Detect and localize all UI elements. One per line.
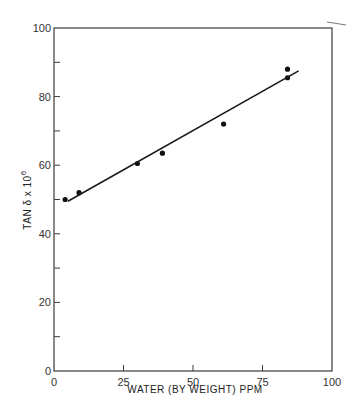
- y-axis-title-main: TAN δ x 10: [22, 175, 33, 229]
- y-tick-label: 40: [39, 228, 51, 240]
- y-tick-label: 60: [39, 159, 51, 171]
- data-point: [221, 121, 226, 126]
- y-axis-title: TAN δ x 106: [19, 170, 33, 229]
- scan-mark: [327, 22, 346, 25]
- x-tick-label: 100: [323, 376, 341, 388]
- plot-frame: [54, 22, 346, 371]
- data-point: [160, 151, 165, 156]
- y-axis: 020406080100: [33, 22, 60, 377]
- data-point: [285, 67, 290, 72]
- y-tick-label: 80: [39, 91, 51, 103]
- fit-line: [68, 71, 299, 201]
- x-axis-title: WATER (BY WEIGHT) PPM: [127, 384, 262, 395]
- plot-area-border: [54, 28, 332, 371]
- data-point: [63, 197, 68, 202]
- x-tick-label: 0: [51, 376, 57, 388]
- chart: 020406080100 0255075100 WATER (BY WEIGHT…: [0, 0, 361, 413]
- y-tick-label: 100: [33, 22, 51, 34]
- y-tick-label: 20: [39, 296, 51, 308]
- y-axis-title-superscript: 6: [19, 170, 28, 175]
- data-series: [63, 67, 299, 203]
